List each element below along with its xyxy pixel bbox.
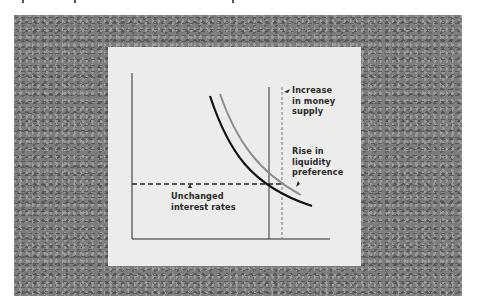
money-supply-arrow-icon [284, 89, 290, 93]
label-rise-liquidity-preference: Rise in liquidity preference [292, 146, 343, 178]
label-increase-money-supply: Increase in money supply [292, 85, 335, 117]
diagram-svg [0, 0, 477, 305]
label-unchanged-interest-rates: Unchanged interest rates [171, 191, 236, 212]
liquidity-arrow-icon [296, 181, 300, 187]
